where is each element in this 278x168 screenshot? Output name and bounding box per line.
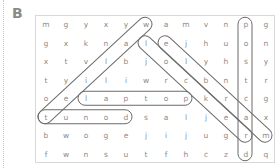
word-loop-marble [155, 33, 275, 145]
word-loop-locker [135, 33, 255, 145]
found-word-loops [35, 15, 275, 163]
word-loop-tunod [38, 110, 132, 124]
word-loop-laptop [78, 91, 192, 105]
margin-dotted-line [3, 0, 4, 168]
exercise-label: B [12, 5, 23, 21]
word-loop-postcard [238, 17, 252, 161]
